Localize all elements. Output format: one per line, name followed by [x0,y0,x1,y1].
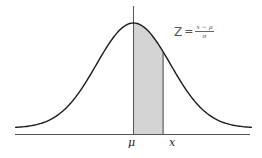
mean-label: μ [128,137,135,148]
normal-curve-diagram [0,0,262,158]
shaded-area [134,23,164,134]
z-symbol: Z [174,25,182,39]
fraction: x − μ σ [195,24,213,39]
denominator: σ [202,32,206,39]
x-label: x [169,137,175,148]
z-formula: Z = x − μ σ [174,24,214,39]
numerator: x − μ [195,24,213,32]
equals-sign: = [184,25,193,38]
